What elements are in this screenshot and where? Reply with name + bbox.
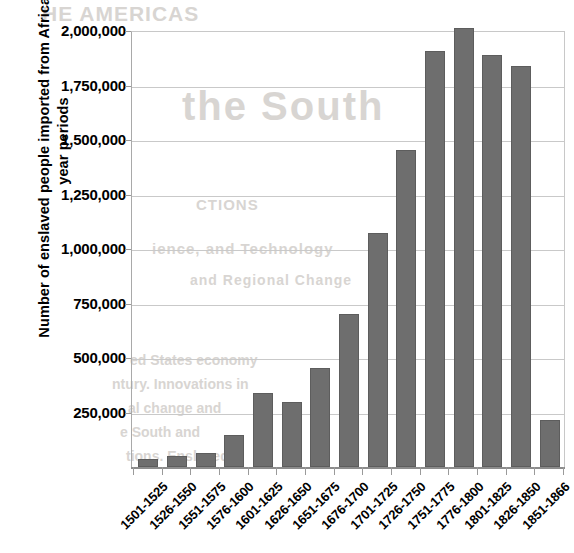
x-tick-mark: [391, 467, 392, 475]
x-tick-mark: [219, 467, 220, 475]
x-tick-mark: [133, 467, 134, 475]
x-tick-mark: [248, 467, 249, 475]
x-tick-mark: [362, 467, 363, 475]
x-tick-mark: [563, 467, 564, 475]
x-tick-mark: [190, 467, 191, 475]
x-tick-mark: [334, 467, 335, 475]
bar-chart: Number of enslaved people imported from …: [0, 0, 574, 553]
x-tick-mark: [506, 467, 507, 475]
x-tick-mark: [420, 467, 421, 475]
x-tick-mark: [477, 467, 478, 475]
x-tick-mark: [448, 467, 449, 475]
x-tick-mark: [162, 467, 163, 475]
x-tick-mark: [534, 467, 535, 475]
x-tick-mark: [305, 467, 306, 475]
x-tick-mark: [276, 467, 277, 475]
x-axis-tick-labels: 1501-15251526-15501551-15751576-16001601…: [0, 0, 574, 553]
